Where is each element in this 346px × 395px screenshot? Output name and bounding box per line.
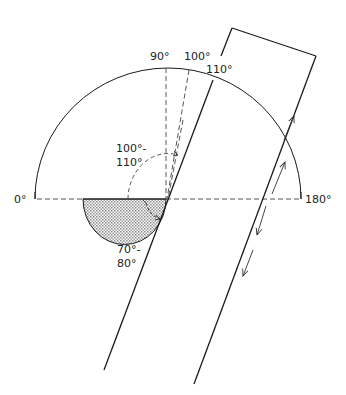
label-90-deg: 90° xyxy=(150,50,170,63)
label-100-deg: 100° xyxy=(184,50,211,63)
line-100-deg xyxy=(167,70,189,199)
arrow-up-icon xyxy=(284,116,294,140)
label-180-deg: 180° xyxy=(305,193,332,206)
line-near-110-dashed xyxy=(168,120,183,199)
diagram-canvas: 0° 180° 90° 100° 110° 100°- 110° 70°- 80… xyxy=(0,0,346,395)
label-lower-range-2: 80° xyxy=(117,257,137,270)
label-upper-range-1: 100°- xyxy=(116,142,146,155)
arrow-down-icon xyxy=(243,250,253,276)
label-lower-range-1: 70°- xyxy=(117,243,140,256)
board-top-edge xyxy=(232,28,316,56)
label-upper-range-2: 110° xyxy=(116,156,143,169)
board-right-edge xyxy=(194,56,316,384)
arrow-up-icon xyxy=(272,162,285,194)
label-110-deg: 110° xyxy=(206,63,233,76)
board-left-edge-top xyxy=(221,28,232,56)
label-0-deg: 0° xyxy=(14,193,27,206)
protractor-arc xyxy=(35,68,301,199)
